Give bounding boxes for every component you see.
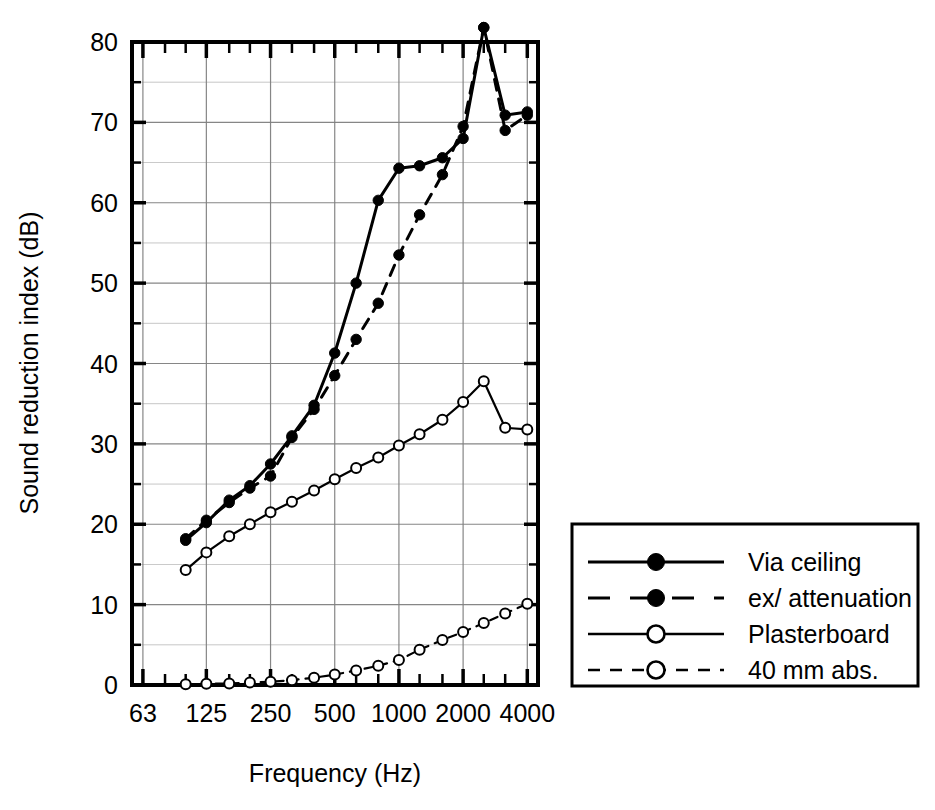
y-tick-label: 60 [90, 189, 118, 217]
data-point [479, 376, 489, 386]
x-tick-label: 1000 [371, 699, 427, 727]
data-point [351, 666, 361, 676]
data-point [458, 121, 468, 131]
data-point [287, 497, 297, 507]
data-point [414, 210, 424, 220]
data-point [458, 627, 468, 637]
data-point [201, 515, 211, 525]
x-tick-label: 2000 [435, 699, 491, 727]
data-point [201, 547, 211, 557]
legend-label: 40 mm abs. [748, 656, 879, 684]
y-tick-label: 40 [90, 350, 118, 378]
data-point [181, 679, 191, 689]
figure-root: 0102030405060708063125250500100020004000… [0, 0, 935, 810]
data-point [266, 507, 276, 517]
data-point [351, 463, 361, 473]
data-point [458, 133, 468, 143]
data-point [373, 195, 383, 205]
data-point [287, 675, 297, 685]
data-point [479, 618, 489, 628]
data-point [458, 397, 468, 407]
legend-label: Via ceiling [748, 548, 862, 576]
data-point [180, 534, 190, 544]
data-point [201, 679, 211, 689]
data-point [522, 599, 532, 609]
data-point [414, 161, 424, 171]
y-tick-label: 0 [104, 671, 118, 699]
data-point [309, 485, 319, 495]
data-point [394, 250, 404, 260]
data-point [437, 415, 447, 425]
legend-label: Plasterboard [748, 620, 890, 648]
data-point [330, 474, 340, 484]
data-point [373, 298, 383, 308]
legend-marker-filled-circle-icon [648, 554, 665, 571]
data-point [266, 677, 276, 687]
data-point [309, 404, 319, 414]
x-tick-label: 125 [185, 699, 227, 727]
legend-marker-open-circle-icon [648, 662, 665, 679]
y-axis-label: Sound reduction index (dB) [15, 212, 43, 515]
x-tick-label: 250 [250, 699, 292, 727]
data-point [394, 655, 404, 665]
data-point [181, 565, 191, 575]
data-point [394, 163, 404, 173]
data-point [330, 370, 340, 380]
data-point [437, 169, 447, 179]
y-tick-label: 30 [90, 430, 118, 458]
data-point [309, 673, 319, 683]
data-point [415, 429, 425, 439]
data-point [522, 424, 532, 434]
data-point [500, 125, 510, 135]
data-point [373, 453, 383, 463]
x-tick-label: 4000 [499, 699, 555, 727]
data-point [224, 531, 234, 541]
data-point [265, 471, 275, 481]
data-point [330, 348, 340, 358]
data-point [351, 278, 361, 288]
x-tick-label: 63 [129, 699, 157, 727]
data-point [373, 661, 383, 671]
data-point [500, 423, 510, 433]
x-axis-label: Frequency (Hz) [249, 759, 421, 787]
data-point [224, 678, 234, 688]
data-point [479, 22, 489, 32]
y-tick-label: 50 [90, 269, 118, 297]
legend[interactable]: Via ceilingex/ attenuationPlasterboard40… [572, 524, 918, 686]
data-point [500, 608, 510, 618]
y-tick-label: 20 [90, 510, 118, 538]
data-point [330, 670, 340, 680]
data-point [437, 153, 447, 163]
data-point [265, 459, 275, 469]
data-point [245, 519, 255, 529]
legend-marker-filled-circle-icon [648, 590, 665, 607]
data-point [287, 432, 297, 442]
data-point [224, 497, 234, 507]
data-point [245, 483, 255, 493]
data-point [415, 645, 425, 655]
data-point [437, 635, 447, 645]
chart-svg: 0102030405060708063125250500100020004000… [0, 0, 935, 810]
data-point [522, 110, 532, 120]
y-tick-label: 10 [90, 591, 118, 619]
y-tick-label: 70 [90, 108, 118, 136]
data-point [351, 334, 361, 344]
legend-label: ex/ attenuation [748, 584, 912, 612]
data-point [394, 440, 404, 450]
legend-marker-open-circle-icon [648, 626, 665, 643]
x-tick-label: 500 [314, 699, 356, 727]
data-point [245, 678, 255, 688]
y-tick-label: 80 [90, 28, 118, 56]
